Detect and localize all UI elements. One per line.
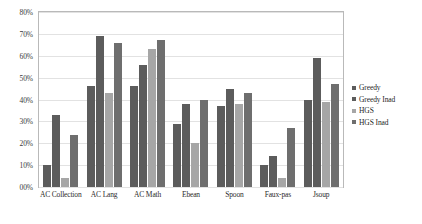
bars-area — [39, 12, 343, 187]
x-axis: AC CollectionAC LangAC MathEbeanSpoonFau… — [39, 190, 343, 204]
y-axis-tick-label: 50% — [20, 73, 33, 82]
y-axis-tick-label: 60% — [20, 51, 33, 60]
legend-swatch-icon — [352, 97, 356, 101]
bar[interactable] — [226, 89, 234, 187]
bar[interactable] — [52, 115, 60, 187]
bar[interactable] — [148, 49, 156, 187]
x-axis-tick-label: Ebean — [169, 190, 212, 204]
legend-swatch-icon — [352, 86, 356, 90]
bar[interactable] — [200, 100, 208, 188]
bar-group — [39, 12, 82, 187]
gridline — [39, 187, 343, 188]
bar[interactable] — [244, 93, 252, 187]
bar[interactable] — [70, 135, 78, 188]
y-axis: 80%70%60%50%40%30%20%10%00% — [0, 11, 36, 188]
bar-chart: 80%70%60%50%40%30%20%10%00% AC Collectio… — [0, 0, 422, 224]
bar-group — [213, 12, 256, 187]
y-axis-tick-label: 20% — [20, 139, 33, 148]
bar[interactable] — [269, 156, 277, 187]
bar[interactable] — [139, 65, 147, 188]
bar[interactable] — [61, 178, 69, 187]
bar[interactable] — [43, 165, 51, 187]
legend-item[interactable]: Greedy Inad — [352, 94, 422, 105]
bar[interactable] — [87, 86, 95, 187]
x-axis-tick-label: Jsoup — [300, 190, 343, 204]
bar[interactable] — [287, 128, 295, 187]
bar-group — [82, 12, 125, 187]
bar[interactable] — [114, 43, 122, 187]
bar[interactable] — [235, 104, 243, 187]
legend-swatch-icon — [352, 120, 356, 124]
legend-item[interactable]: HGS — [352, 105, 422, 116]
y-axis-tick-label: 00% — [20, 183, 33, 192]
legend-label: Greedy Inad — [359, 95, 395, 104]
bar[interactable] — [304, 100, 312, 188]
bar[interactable] — [157, 40, 165, 187]
bar[interactable] — [260, 165, 268, 187]
x-axis-tick-label: Faux-pas — [256, 190, 299, 204]
bar[interactable] — [130, 86, 138, 187]
x-axis-tick-label: AC Math — [126, 190, 169, 204]
bar[interactable] — [322, 102, 330, 187]
x-axis-tick-label: Spoon — [213, 190, 256, 204]
x-axis-tick-label: AC Collection — [39, 190, 82, 204]
y-axis-tick-label: 40% — [20, 95, 33, 104]
y-axis-tick-label: 30% — [20, 117, 33, 126]
bar[interactable] — [182, 104, 190, 187]
legend-label: HGS Inad — [359, 118, 388, 127]
y-axis-tick-label: 80% — [20, 8, 33, 17]
bar-group — [256, 12, 299, 187]
bar[interactable] — [105, 93, 113, 187]
bar[interactable] — [217, 106, 225, 187]
bar[interactable] — [331, 84, 339, 187]
bar-group — [300, 12, 343, 187]
legend-swatch-icon — [352, 109, 356, 113]
legend-label: HGS — [359, 106, 374, 115]
bar[interactable] — [278, 178, 286, 187]
bar[interactable] — [191, 143, 199, 187]
x-axis-tick-label: AC Lang — [82, 190, 125, 204]
bar[interactable] — [173, 124, 181, 187]
legend-item[interactable]: HGS Inad — [352, 117, 422, 128]
bar[interactable] — [313, 58, 321, 187]
bar-group — [126, 12, 169, 187]
legend-label: Greedy — [359, 83, 380, 92]
y-axis-tick-label: 10% — [20, 161, 33, 170]
chart-legend: GreedyGreedy InadHGSHGS Inad — [352, 82, 422, 128]
bar[interactable] — [96, 36, 104, 187]
y-axis-tick-label: 70% — [20, 29, 33, 38]
bar-group — [169, 12, 212, 187]
legend-item[interactable]: Greedy — [352, 82, 422, 93]
